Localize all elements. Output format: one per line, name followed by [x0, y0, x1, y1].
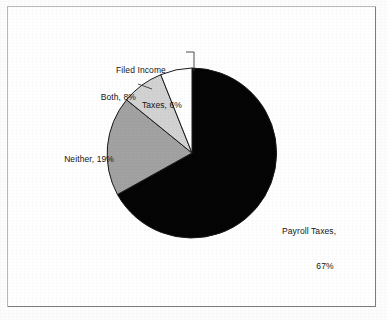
slice-label-filed-income-taxes-line1: Filed Income [100, 65, 182, 77]
slice-label-both: Both, 8% [68, 80, 136, 115]
slice-label-payroll-taxes-line2: 67% [282, 261, 368, 273]
slice-label-payroll-taxes-line1: Payroll Taxes, [282, 226, 368, 238]
slice-label-both-line1: Both, 8% [101, 92, 136, 102]
slice-label-neither: Neither, 19% [36, 142, 114, 177]
slice-label-neither-line1: Neither, 19% [64, 154, 114, 164]
slice-label-payroll-taxes: Payroll Taxes, 67% [282, 203, 368, 295]
chart-page: Filed Income Taxes, 6% Both, 8% Neither,… [0, 0, 388, 320]
